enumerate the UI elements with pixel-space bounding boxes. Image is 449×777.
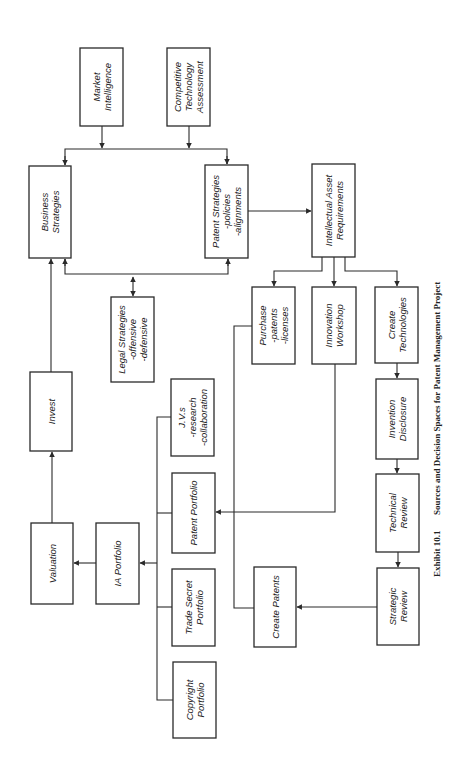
node-competitive: CompetitiveTechnologyAssessment bbox=[167, 48, 210, 126]
node-label: StrategicReview bbox=[387, 588, 409, 626]
node-label: BusinessStrategies bbox=[39, 190, 61, 233]
node-business: BusinessStrategies bbox=[29, 166, 71, 258]
node-copyright: CopyrightPortfolio bbox=[173, 662, 216, 738]
node-label: Intellectual AssetRequirements bbox=[323, 174, 345, 246]
node-ia-req: Intellectual AssetRequirements bbox=[312, 164, 355, 257]
bottom-bus bbox=[65, 259, 228, 274]
node-label: TechnicalReview bbox=[387, 492, 409, 533]
node-label: InnovationWorkshop bbox=[323, 304, 345, 348]
node-label: Valuation bbox=[47, 544, 58, 583]
node-market: MarketIntelligence bbox=[80, 48, 123, 126]
caption: Exhibit 10.1 Sources and Decision Spaces… bbox=[432, 282, 442, 577]
node-label: Patent Portfolio bbox=[188, 481, 199, 546]
node-label: InventionDisclosure bbox=[386, 397, 408, 441]
node-technical: TechnicalReview bbox=[376, 474, 419, 552]
diagram-nodes: MarketIntelligenceCompetitiveTechnologyA… bbox=[29, 48, 419, 738]
node-label: Create Patents bbox=[270, 575, 281, 639]
node-trade-secret: Trade SecretPortfolio bbox=[172, 569, 215, 646]
node-create-tech: CreateTechnologies bbox=[375, 287, 418, 363]
top-bus bbox=[65, 149, 227, 165]
node-invention: InventionDisclosure bbox=[376, 379, 418, 459]
node-strategic: StrategicReview bbox=[377, 568, 419, 645]
node-innovation: InnovationWorkshop bbox=[312, 287, 356, 364]
node-label: Invest bbox=[46, 398, 57, 424]
node-jvs: J.V.s-research-collaboration bbox=[171, 379, 214, 456]
caption-number: Exhibit 10.1 bbox=[432, 530, 442, 577]
node-create-patents: Create Patents bbox=[254, 567, 296, 647]
node-label: Purchase-patents-licenses bbox=[257, 305, 290, 345]
node-purchase: Purchase-patents-licenses bbox=[252, 287, 295, 364]
node-label: IA Portfolio bbox=[112, 540, 123, 586]
node-patent-strat: Patent Strategies-policies-alignments bbox=[205, 165, 248, 258]
node-patent-port: Patent Portfolio bbox=[172, 473, 215, 553]
node-label: CompetitiveTechnologyAssessment bbox=[172, 61, 205, 114]
node-ia-port: IA Portfolio bbox=[96, 523, 139, 604]
portfolio-bus bbox=[157, 417, 173, 700]
node-label: CopyrightPortfolio bbox=[184, 679, 206, 720]
caption-title: Sources and Decision Spaces for Patent M… bbox=[432, 282, 442, 515]
node-legal: Legal Strategies-offensive-defensive bbox=[111, 297, 154, 382]
node-invest: Invest bbox=[30, 372, 72, 451]
node-valuation: Valuation bbox=[31, 523, 73, 604]
patent-management-diagram: MarketIntelligenceCompetitiveTechnologyA… bbox=[0, 0, 449, 777]
